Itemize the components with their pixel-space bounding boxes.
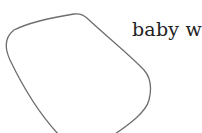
shape-label: baby w bbox=[132, 18, 202, 40]
shape-path bbox=[6, 14, 150, 133]
diagram-canvas: baby w bbox=[0, 0, 202, 133]
